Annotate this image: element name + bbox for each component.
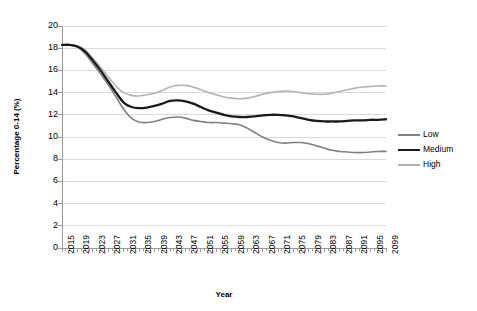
x-tick-label: 2023 <box>97 235 107 254</box>
x-tick-label: 2071 <box>282 235 292 254</box>
legend-swatch-low <box>398 134 420 136</box>
x-tick-label: 2047 <box>189 235 199 254</box>
x-tick-label: 2079 <box>313 235 323 254</box>
x-tick-label: 2067 <box>267 235 277 254</box>
x-tick-label: 2083 <box>328 235 338 254</box>
x-tick-label: 2031 <box>128 235 138 254</box>
x-tick-label: 2035 <box>143 235 153 254</box>
x-tick-label: 2063 <box>251 235 261 254</box>
x-tick-label: 2099 <box>390 235 400 254</box>
legend-label-high: High <box>423 158 440 171</box>
legend-label-medium: Medium <box>423 143 453 156</box>
legend-swatch-medium <box>398 149 420 151</box>
legend-swatch-high <box>398 164 420 166</box>
x-tick-label: 2051 <box>205 235 215 254</box>
legend-item-medium[interactable]: Medium <box>398 143 474 158</box>
x-tick-label: 2091 <box>359 235 369 254</box>
x-axis-title: Year <box>62 290 386 299</box>
legend-label-low: Low <box>423 128 439 141</box>
x-tick-label: 2027 <box>112 235 122 254</box>
x-tick-label: 2019 <box>81 235 91 254</box>
legend-item-low[interactable]: Low <box>398 128 474 143</box>
x-tick-label: 2059 <box>236 235 246 254</box>
x-tick-label: 2043 <box>174 235 184 254</box>
line-chart: Percentage 0-14 (%) 02468101214161820 20… <box>0 0 477 311</box>
chart-legend: LowMediumHigh <box>398 128 474 173</box>
legend-item-high[interactable]: High <box>398 158 474 173</box>
x-tick-label: 2095 <box>375 235 385 254</box>
x-tick-label: 2039 <box>159 235 169 254</box>
x-tick-label: 2075 <box>297 235 307 254</box>
x-tick-label: 2055 <box>220 235 230 254</box>
x-tick-label: 2015 <box>66 235 76 254</box>
x-tick-label: 2087 <box>344 235 354 254</box>
